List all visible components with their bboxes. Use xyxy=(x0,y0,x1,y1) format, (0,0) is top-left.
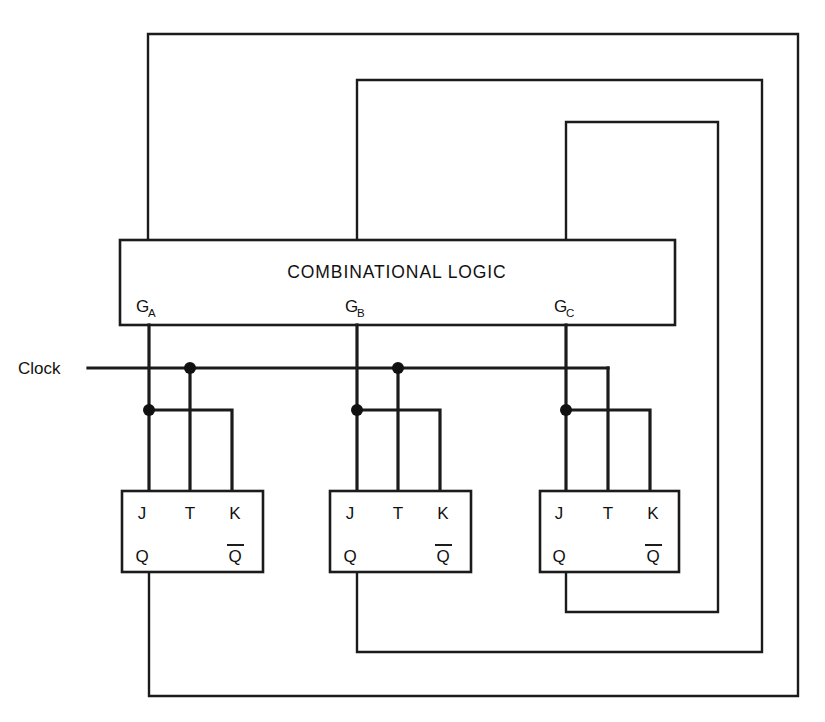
flipflop-c-output-q: Q xyxy=(552,547,565,566)
circuit-svg: COMBINATIONAL LOGIC G A G B G C Clock xyxy=(0,0,825,722)
svg-text:C: C xyxy=(566,307,574,319)
feedback-wire-a xyxy=(148,34,798,696)
flipflop-a-output-q: Q xyxy=(135,547,148,566)
flipflop-a-input-t: T xyxy=(185,504,195,523)
flipflop-b-output-qbar: Q xyxy=(436,547,449,566)
flipflop-c-input-k: K xyxy=(647,504,659,523)
flipflop-a-output-qbar: Q xyxy=(228,547,241,566)
clock-label: Clock xyxy=(18,359,61,378)
flipflop-c-input-t: T xyxy=(603,504,613,523)
flipflop-b-input-j: J xyxy=(346,504,355,523)
flipflop-c: J T K Q Q xyxy=(540,491,679,572)
flipflop-a-input-k: K xyxy=(229,504,241,523)
flipflop-c-input-j: J xyxy=(555,504,564,523)
circuit-diagram: COMBINATIONAL LOGIC G A G B G C Clock xyxy=(0,0,825,722)
combinational-logic-box xyxy=(120,240,675,325)
flipflop-a: J T K Q Q xyxy=(122,491,263,572)
svg-text:A: A xyxy=(148,307,156,319)
flipflop-b-input-k: K xyxy=(437,504,449,523)
clock-junction-b xyxy=(392,362,404,374)
combinational-logic-title: COMBINATIONAL LOGIC xyxy=(287,262,506,282)
gc-junction xyxy=(560,404,572,416)
clock-junction-a xyxy=(184,362,196,374)
flipflop-b: J T K Q Q xyxy=(330,491,471,572)
flipflop-a-input-j: J xyxy=(138,504,147,523)
svg-text:B: B xyxy=(357,307,365,319)
flipflop-b-output-q: Q xyxy=(343,547,356,566)
flipflop-c-output-qbar: Q xyxy=(646,547,659,566)
gb-junction xyxy=(351,404,363,416)
ga-junction xyxy=(143,404,155,416)
flipflop-b-input-t: T xyxy=(393,504,403,523)
